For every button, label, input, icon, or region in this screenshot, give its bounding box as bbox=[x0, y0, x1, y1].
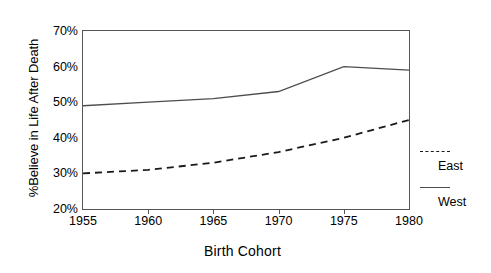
x-tick-mark bbox=[213, 210, 214, 214]
x-tick-label: 1955 bbox=[53, 214, 113, 228]
y-tick-label: 70% bbox=[30, 25, 78, 37]
series-line-west bbox=[83, 67, 409, 106]
chart-figure: %Believe in Life After Death 20%30%40%50… bbox=[0, 0, 491, 273]
y-tick-label: 60% bbox=[30, 61, 78, 73]
y-tick-label: 40% bbox=[30, 132, 78, 144]
x-tick-label: 1965 bbox=[183, 214, 243, 228]
series-line-east bbox=[83, 120, 409, 173]
x-axis-label: Birth Cohort bbox=[80, 243, 405, 259]
y-axis-tick-labels: 20%30%40%50%60%70% bbox=[26, 30, 78, 210]
y-tick-label: 50% bbox=[30, 96, 78, 108]
legend-entry-west: West bbox=[418, 181, 488, 217]
x-tick-label: 1970 bbox=[249, 214, 309, 228]
x-tick-mark bbox=[148, 210, 149, 214]
x-tick-label: 1975 bbox=[314, 214, 374, 228]
y-tick-label: 30% bbox=[30, 167, 78, 179]
x-tick-mark bbox=[344, 210, 345, 214]
legend-swatch-solid-icon bbox=[420, 187, 450, 188]
legend-entry-east: East bbox=[418, 145, 488, 181]
x-tick-mark bbox=[279, 210, 280, 214]
legend-label-east: East bbox=[438, 159, 463, 173]
x-tick-label: 1960 bbox=[118, 214, 178, 228]
chart-legend: East West bbox=[418, 145, 488, 217]
plot-lines bbox=[83, 31, 409, 209]
plot-area bbox=[82, 30, 410, 210]
legend-swatch-dashed-icon bbox=[420, 151, 450, 152]
legend-label-west: West bbox=[438, 195, 466, 209]
